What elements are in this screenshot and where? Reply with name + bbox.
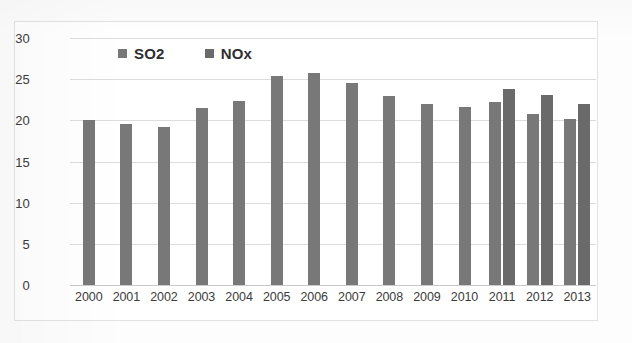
bar-so2-2011 — [489, 102, 501, 285]
legend-item-so2: SO2 — [118, 45, 165, 62]
bar-nox-2013 — [578, 104, 590, 285]
bar-so2-2010 — [459, 107, 471, 285]
bar-so2-2004 — [233, 101, 245, 285]
legend-swatch-so2 — [118, 49, 127, 58]
gridline-5 — [70, 244, 596, 245]
legend-item-nox: NOx — [205, 45, 252, 62]
bar-nox-2011 — [503, 89, 515, 285]
plot-area: 051015202530 200020012002200320042005200… — [70, 38, 596, 285]
y-tick-label-0: 0 — [0, 278, 30, 293]
bar-so2-2003 — [196, 108, 208, 285]
bar-so2-2005 — [271, 76, 283, 285]
x-tick-label-2013: 2013 — [563, 290, 590, 304]
x-tick-label-2010: 2010 — [451, 290, 478, 304]
x-tick-label-2011: 2011 — [489, 290, 515, 304]
x-tick-label-2000: 2000 — [75, 290, 102, 304]
bar-so2-2007 — [346, 83, 358, 285]
x-tick-label-2007: 2007 — [338, 290, 365, 304]
x-tick-label-2012: 2012 — [526, 290, 553, 304]
gridline-25 — [70, 79, 596, 80]
x-tick-label-2006: 2006 — [300, 290, 327, 304]
y-tick-label-5: 5 — [0, 236, 30, 251]
legend-swatch-nox — [205, 49, 214, 58]
y-tick-label-20: 20 — [0, 113, 30, 128]
y-tick-label-10: 10 — [0, 195, 30, 210]
y-tick-label-25: 25 — [0, 72, 30, 87]
bar-so2-2002 — [158, 127, 170, 285]
bar-so2-2013 — [564, 119, 576, 285]
x-tick-label-2004: 2004 — [225, 290, 252, 304]
chart-legend: SO2 NOx — [118, 45, 252, 62]
bar-so2-2009 — [421, 104, 433, 285]
bar-so2-2006 — [308, 73, 320, 285]
bar-nox-2012 — [541, 95, 553, 285]
y-tick-label-30: 30 — [0, 31, 30, 46]
legend-label-nox: NOx — [221, 45, 252, 62]
x-tick-label-2008: 2008 — [376, 290, 403, 304]
bar-so2-2012 — [527, 114, 539, 285]
x-tick-label-2003: 2003 — [188, 290, 215, 304]
bar-so2-2000 — [83, 120, 95, 285]
gridline-30 — [70, 38, 596, 39]
bar-so2-2008 — [383, 96, 395, 285]
bar-chart: 051015202530 200020012002200320042005200… — [0, 0, 632, 343]
x-tick-label-2009: 2009 — [413, 290, 440, 304]
legend-label-so2: SO2 — [134, 45, 165, 62]
x-tick-label-2005: 2005 — [263, 290, 290, 304]
gridline-10 — [70, 203, 596, 204]
gridline-0 — [70, 285, 596, 286]
x-tick-label-2001: 2001 — [113, 290, 140, 304]
y-tick-label-15: 15 — [0, 154, 30, 169]
gridline-15 — [70, 162, 596, 163]
gridline-20 — [70, 120, 596, 121]
x-tick-label-2002: 2002 — [150, 290, 177, 304]
bar-so2-2001 — [120, 124, 132, 285]
